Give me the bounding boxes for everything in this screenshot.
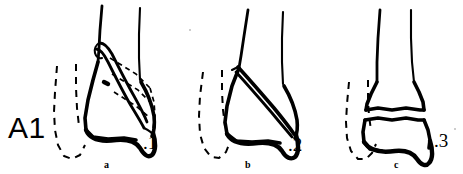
print-speck bbox=[454, 128, 456, 130]
panel-a-tibia-shaft-lateral bbox=[139, 8, 140, 80]
panel-b-oblique-fracture-line bbox=[238, 67, 294, 134]
panel-b-drawing bbox=[199, 10, 298, 158]
panel-a-letter: a bbox=[104, 160, 109, 170]
panel-c-letter: c bbox=[394, 160, 398, 170]
panel-a-fracture-blob bbox=[104, 82, 108, 84]
panel-c-tibia-shaft-lateral bbox=[411, 10, 414, 82]
panel-c-drawing bbox=[346, 10, 432, 165]
figure-line-drawing bbox=[0, 0, 463, 174]
fracture-classification-figure: A1 .1 .2 .3 a b c bbox=[0, 0, 463, 174]
panel-b-tibia-shaft-medial bbox=[239, 10, 248, 68]
panel-c-number-label: .3 bbox=[434, 131, 448, 150]
print-speck bbox=[189, 29, 191, 31]
panel-a-dashed-fibula-outline bbox=[54, 66, 85, 159]
group-label-a1: A1 bbox=[8, 113, 46, 143]
panel-a-dashed-tibia-outline bbox=[76, 64, 79, 126]
panel-b-number-label: .2 bbox=[288, 135, 302, 154]
panel-a-drawing bbox=[54, 6, 155, 159]
panel-b-tibia-shaft-lateral bbox=[282, 12, 283, 84]
panel-b-letter: b bbox=[245, 160, 251, 170]
panel-c-transverse-fracture-lower bbox=[365, 118, 424, 120]
panel-c-transverse-fracture-upper bbox=[366, 108, 424, 110]
panel-a-number-label: .1 bbox=[143, 133, 157, 152]
panel-c-distal-tibia-flare-lateral bbox=[414, 82, 424, 110]
panel-c-tibia-shaft-medial bbox=[377, 10, 380, 82]
